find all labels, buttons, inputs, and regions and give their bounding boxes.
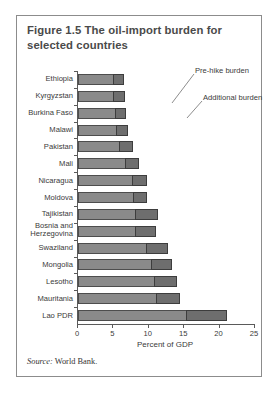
y-axis-tick <box>74 71 77 72</box>
y-axis-tick <box>74 88 77 89</box>
bar-segment-additional <box>156 293 180 304</box>
y-axis-tick <box>74 138 77 139</box>
x-tick-label: 5 <box>110 329 114 338</box>
y-axis-tick <box>74 206 77 207</box>
bar-segment-pre-hike <box>78 158 125 169</box>
bar-segment-additional <box>113 91 124 102</box>
y-axis-tick <box>74 290 77 291</box>
source-note: Source: World Bank. <box>27 357 97 366</box>
bar-segment-pre-hike <box>78 259 151 270</box>
bar-segment-additional <box>119 141 132 152</box>
bar-pakistan <box>78 141 133 152</box>
bar-bosnia-and-herzegovina <box>78 226 156 237</box>
category-label: Moldova <box>44 194 73 203</box>
bar-lesotho <box>78 276 177 287</box>
x-tick-mark <box>77 324 78 328</box>
annotation-additional-burden: Additional burden <box>203 93 262 102</box>
category-label: Bosnia andHerzegovina <box>30 222 73 239</box>
x-tick-mark <box>148 324 149 328</box>
figure-panel: Figure 1.5 The oil-import burden for sel… <box>16 15 262 377</box>
bar-segment-pre-hike <box>78 108 115 119</box>
x-tick-label: 0 <box>75 329 79 338</box>
category-label: Mauritania <box>38 295 73 304</box>
bar-moldova <box>78 192 147 203</box>
y-axis-tick <box>74 240 77 241</box>
bar-segment-pre-hike <box>78 74 113 85</box>
x-tick-label: 15 <box>179 329 187 338</box>
bar-segment-pre-hike <box>78 243 146 254</box>
category-label: Burkina Faso <box>28 109 73 118</box>
category-label: Ethiopia <box>46 75 73 84</box>
annotation-pre-hike-burden: Pre-hike burden <box>195 66 249 75</box>
x-tick-mark <box>183 324 184 328</box>
x-axis-label: Percent of GDP <box>137 340 193 349</box>
category-label: Mali <box>59 160 73 169</box>
y-axis-tick <box>74 273 77 274</box>
bar-mali <box>78 158 139 169</box>
bar-segment-pre-hike <box>78 192 133 203</box>
y-axis-tick <box>74 223 77 224</box>
bar-segment-additional <box>186 310 228 321</box>
x-tick-label: 20 <box>214 329 222 338</box>
bar-segment-pre-hike <box>78 91 113 102</box>
bar-segment-additional <box>146 243 168 254</box>
bar-mauritania <box>78 293 180 304</box>
category-label: Pakistan <box>44 143 73 152</box>
bar-tajikistan <box>78 209 158 220</box>
y-axis-tick <box>74 105 77 106</box>
bar-lao-pdr <box>78 310 227 321</box>
bar-segment-pre-hike <box>78 209 135 220</box>
y-axis-tick <box>74 172 77 173</box>
category-label: Malawi <box>49 126 73 135</box>
bar-nicaragua <box>78 175 147 186</box>
x-tick-mark <box>254 324 255 328</box>
bar-segment-additional <box>113 74 124 85</box>
bar-segment-additional <box>135 209 158 220</box>
x-tick-label: 10 <box>144 329 152 338</box>
category-label: Mongolia <box>42 261 73 270</box>
bar-segment-additional <box>135 226 156 237</box>
bar-segment-pre-hike <box>78 310 186 321</box>
bar-segment-additional <box>115 108 126 119</box>
bar-segment-additional <box>116 125 128 136</box>
category-label: Swaziland <box>38 244 73 253</box>
y-axis-tick <box>74 189 77 190</box>
bar-swaziland <box>78 243 168 254</box>
category-label: Tajikistan <box>42 210 73 219</box>
bar-segment-additional <box>133 192 148 203</box>
bar-segment-pre-hike <box>78 141 119 152</box>
source-text: World Bank. <box>55 357 98 366</box>
x-axis-line <box>77 324 254 325</box>
y-axis-tick <box>74 122 77 123</box>
bar-segment-additional <box>154 276 177 287</box>
category-label: Kyrgyzstan <box>35 92 73 101</box>
x-tick-mark <box>219 324 220 328</box>
bar-malawi <box>78 125 128 136</box>
bar-segment-pre-hike <box>78 226 135 237</box>
bar-segment-pre-hike <box>78 125 116 136</box>
bar-kyrgyzstan <box>78 91 125 102</box>
bar-segment-additional <box>125 158 138 169</box>
category-label: Lesotho <box>46 278 73 287</box>
y-axis-tick <box>74 307 77 308</box>
x-tick-label: 25 <box>250 329 258 338</box>
source-prefix: Source: <box>27 357 53 366</box>
bar-segment-pre-hike <box>78 175 132 186</box>
bar-mongolia <box>78 259 172 270</box>
y-axis-tick <box>74 155 77 156</box>
category-label: Nicaragua <box>38 177 73 186</box>
bar-segment-additional <box>151 259 172 270</box>
bar-segment-additional <box>132 175 148 186</box>
y-axis-tick <box>74 257 77 258</box>
bar-segment-pre-hike <box>78 276 154 287</box>
bar-segment-pre-hike <box>78 293 156 304</box>
bar-ethiopia <box>78 74 124 85</box>
x-tick-mark <box>112 324 113 328</box>
figure-title: Figure 1.5 The oil-import burden for sel… <box>27 23 253 52</box>
chart-plot-area: EthiopiaKyrgyzstanBurkina FasoMalawiPaki… <box>77 71 254 324</box>
category-label: Lao PDR <box>42 312 73 321</box>
bar-burkina-faso <box>78 108 126 119</box>
